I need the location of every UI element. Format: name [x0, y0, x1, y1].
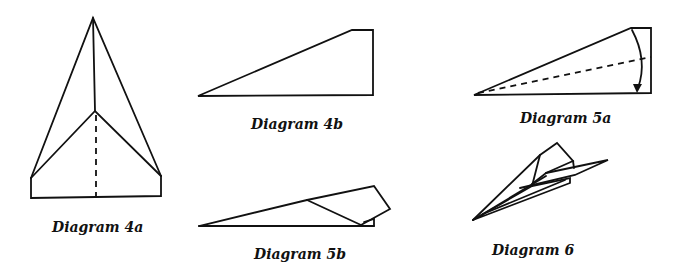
diagram-6-figure: [473, 143, 608, 220]
fold-arrow-icon: [633, 84, 642, 93]
diagram-5a-caption: Diagram 5a: [520, 110, 611, 126]
diagram-5b-figure: [199, 186, 390, 226]
diagram-4b-caption: Diagram 4b: [251, 116, 343, 132]
diagram-5a-figure: [474, 28, 651, 95]
diagram-6-caption: Diagram 6: [492, 242, 574, 258]
diagram-4a-figure: [31, 18, 161, 198]
diagram-5b-caption: Diagram 5b: [254, 246, 346, 262]
diagram-4b-figure: [198, 30, 373, 96]
diagram-4a-caption: Diagram 4a: [52, 219, 143, 235]
